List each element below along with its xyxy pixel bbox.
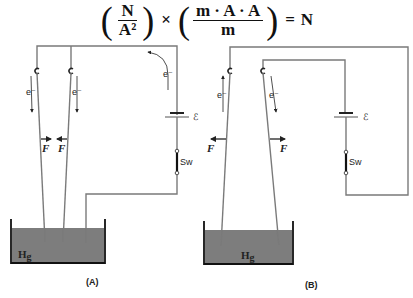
- switch-terminal: [175, 149, 179, 153]
- diagram-b: e⁻ e⁻ F F ℰ Sw Hg (B): [204, 47, 408, 290]
- hanging-wire-left: [37, 73, 45, 242]
- force-label: F: [206, 142, 215, 154]
- pivot-hook-icon: [261, 69, 265, 74]
- electron-label: e⁻: [26, 87, 36, 97]
- switch-terminal: [344, 171, 348, 175]
- force-label: F: [41, 142, 50, 154]
- electron-label: e⁻: [72, 87, 82, 97]
- switch-terminal: [344, 150, 348, 154]
- electron-label: e⁻: [269, 90, 279, 100]
- hanging-wire-right: [63, 73, 71, 242]
- switch-label: Sw: [180, 157, 193, 167]
- outer-wire: [230, 47, 408, 195]
- electron-label: e⁻: [163, 69, 173, 79]
- force-label: F: [279, 142, 288, 154]
- force-label: F: [57, 142, 66, 154]
- top-wire: [37, 46, 177, 115]
- battery-label: ℰ: [363, 112, 369, 122]
- electron-label: e⁻: [217, 90, 227, 100]
- switch-label: Sw: [349, 157, 362, 167]
- pivot-hook-icon: [228, 69, 232, 74]
- switch-terminal: [175, 171, 179, 175]
- circuit-diagrams: e⁻ e⁻ e⁻ F F ℰ Sw Hg (A): [0, 0, 413, 298]
- pivot-hook-icon: [35, 69, 39, 74]
- caption-b: (B): [305, 280, 318, 290]
- caption-a: (A): [86, 277, 99, 287]
- diagram-a: e⁻ e⁻ e⁻ F F ℰ Sw Hg (A): [11, 46, 199, 287]
- battery-label: ℰ: [193, 112, 199, 122]
- mercury-label: Hg: [18, 248, 32, 262]
- wire-immersed: [221, 230, 222, 246]
- mercury-label: Hg: [241, 249, 255, 263]
- pivot-hook-icon: [69, 69, 73, 74]
